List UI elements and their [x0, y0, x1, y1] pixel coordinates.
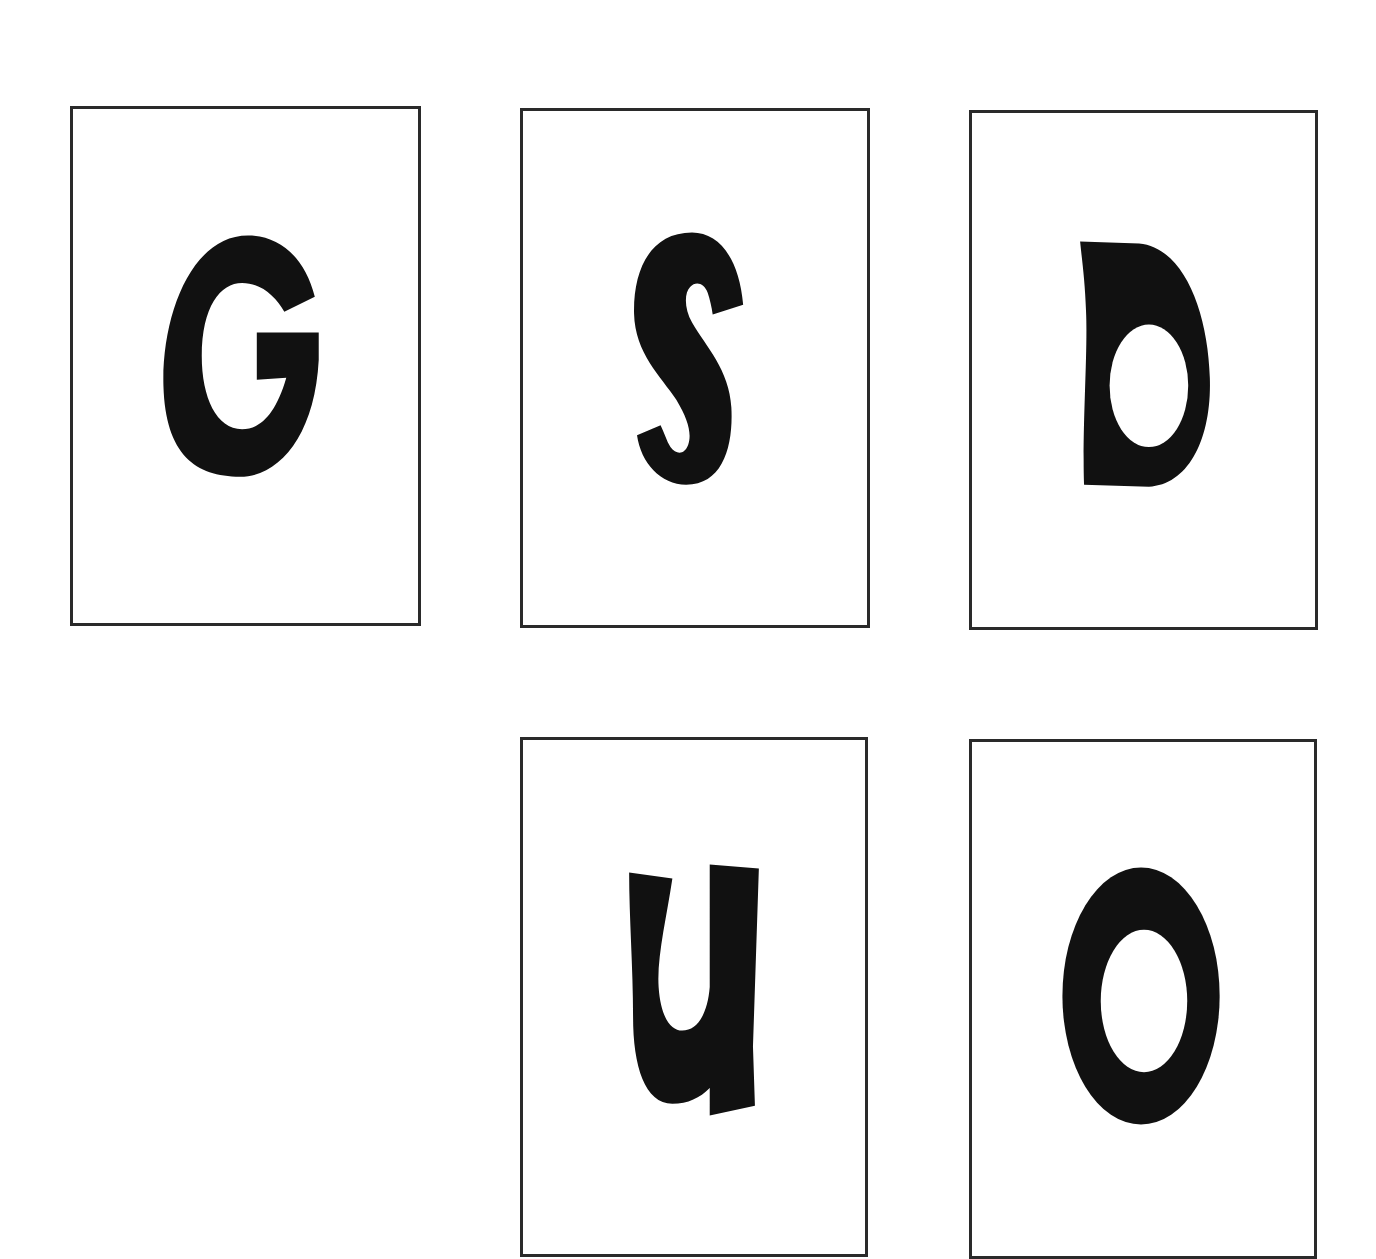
letter-o-glyph-icon	[972, 742, 1314, 1256]
letter-card-g: G	[70, 106, 421, 626]
letter-card-d: D	[969, 110, 1318, 630]
letter-card-o: O	[969, 739, 1317, 1259]
letter-s-glyph-icon	[523, 111, 867, 625]
letter-card-u: U	[520, 737, 868, 1257]
letter-d-glyph-icon	[972, 113, 1315, 627]
letter-g-glyph-icon	[73, 109, 418, 623]
letter-u-glyph-icon	[523, 740, 865, 1254]
letter-card-s: S	[520, 108, 870, 628]
